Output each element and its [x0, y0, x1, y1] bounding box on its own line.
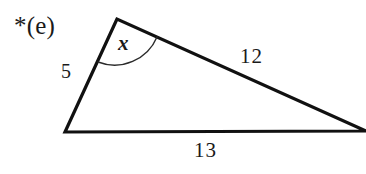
side-length-label-hypotenuse: 12 [240, 46, 263, 67]
angle-label-x: x [118, 33, 129, 54]
triangle-figure: *(e) 5 12 13 x [0, 0, 366, 174]
side-length-label-base: 13 [194, 140, 217, 161]
part-label: *(e) [14, 13, 55, 38]
side-length-label-left: 5 [61, 61, 71, 81]
